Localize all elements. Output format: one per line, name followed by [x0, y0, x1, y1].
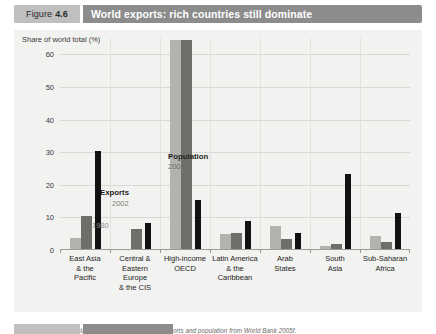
bar-exports-1980	[170, 40, 181, 249]
category-label-line: Central &	[110, 254, 160, 264]
bar-population-2002	[245, 221, 251, 249]
x-axis-category-labels: East Asia& thePacificCentral &Eastern Eu…	[60, 254, 410, 294]
legend-exports-1980-label: 1980	[92, 221, 109, 230]
x-axis-tick	[260, 250, 261, 253]
bar-group	[260, 38, 310, 249]
category-label-line: Asia	[310, 264, 360, 274]
y-tick-label-0: 0	[50, 246, 54, 255]
bar-exports-2002	[231, 233, 242, 249]
bar-group	[110, 38, 160, 249]
legend-exports-title: Exports	[100, 188, 129, 197]
category-label-line: & the	[60, 264, 110, 274]
category-label-line: OECD	[160, 264, 210, 274]
y-tick-label-20: 20	[46, 180, 54, 189]
bar-group	[310, 38, 360, 249]
bar-population-2002	[145, 223, 151, 249]
category-label-line: Eastern Europe	[110, 264, 160, 283]
bar-exports-2002	[181, 40, 192, 249]
y-tick-label-60: 60	[46, 50, 54, 59]
x-axis-tick	[409, 250, 410, 253]
category-label: ArabStates	[260, 254, 310, 273]
x-axis-tick	[110, 250, 111, 253]
category-label-line: Africa	[360, 264, 410, 274]
bar-exports-1980	[370, 236, 381, 249]
legend-exports-2002-label: 2002	[112, 199, 129, 208]
bar-exports-1980	[220, 234, 231, 249]
bar-group	[160, 38, 210, 249]
category-label-line: & the	[210, 264, 260, 274]
category-label: Sub-SaharanAfrica	[360, 254, 410, 273]
category-label-line: Arab	[260, 254, 310, 264]
y-tick-label-40: 40	[46, 115, 54, 124]
category-label-line: East Asia	[60, 254, 110, 264]
category-label: Latin America& theCaribbean	[210, 254, 260, 283]
bar-exports-2002	[131, 229, 142, 249]
footer-tag-right	[83, 324, 173, 334]
y-tick-label-30: 30	[46, 148, 54, 157]
x-axis-tick	[310, 250, 311, 253]
figure-number-tag: Figure 4.6	[14, 5, 80, 23]
bar-group	[210, 38, 260, 249]
bar-exports-2002	[281, 239, 292, 249]
category-label-line: Caribbean	[210, 273, 260, 283]
figure-number-value: 4.6	[55, 9, 68, 19]
category-label-line: High-income	[160, 254, 210, 264]
category-label-line: States	[260, 264, 310, 274]
bar-population-2002	[295, 233, 301, 249]
category-label: East Asia& thePacific	[60, 254, 110, 283]
category-label-line: Sub-Saharan	[360, 254, 410, 264]
category-label: High-incomeOECD	[160, 254, 210, 273]
category-label-line: & the CIS	[110, 283, 160, 293]
bars-layer	[60, 38, 410, 249]
category-label-line: Latin America	[210, 254, 260, 264]
legend-population-year-label: 2002	[168, 162, 185, 171]
category-label-line: Pacific	[60, 273, 110, 283]
figure-title: World exports: rich countries still domi…	[83, 5, 422, 23]
bar-population-2002	[195, 200, 201, 249]
x-axis-tick	[210, 250, 211, 253]
footer-tag-left	[14, 324, 80, 334]
plot-area: 0102030405060 Exports 2002 1980 Populati…	[60, 38, 410, 250]
figure-header: Figure 4.6 World exports: rich countries…	[14, 5, 422, 23]
y-tick-label-10: 10	[46, 213, 54, 222]
bar-population-2002	[345, 174, 351, 249]
bar-group	[60, 38, 110, 249]
category-label: Central &Eastern Europe& the CIS	[110, 254, 160, 292]
figure-number-word: Figure	[26, 9, 52, 19]
bar-exports-1980	[70, 238, 81, 249]
bar-group	[360, 38, 410, 249]
footer-decoration	[14, 324, 173, 334]
bar-exports-2002	[81, 216, 92, 249]
bar-population-2002	[395, 213, 401, 249]
bar-exports-1980	[270, 226, 281, 249]
x-axis-tick	[160, 250, 161, 253]
y-tick-label-50: 50	[46, 82, 54, 91]
x-axis-tick	[60, 250, 61, 253]
legend-population-title: Population	[168, 152, 208, 161]
chart-panel: Share of world total (%) 0102030405060 E…	[14, 30, 422, 312]
bar-population-2002	[95, 151, 101, 249]
category-label-line: South	[310, 254, 360, 264]
x-axis-tick	[360, 250, 361, 253]
category-label: SouthAsia	[310, 254, 360, 273]
